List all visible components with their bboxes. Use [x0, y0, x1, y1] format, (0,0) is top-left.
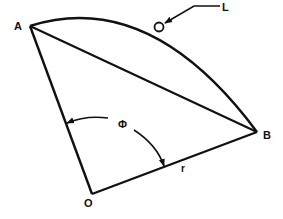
label-b: B — [263, 129, 271, 141]
label-o: O — [84, 197, 93, 209]
label-l: L — [222, 1, 229, 13]
l-leader-line — [165, 6, 220, 23]
label-a: A — [14, 20, 22, 32]
label-r: r — [181, 163, 185, 174]
phi-arc-left — [67, 117, 108, 123]
label-phi: Φ — [118, 118, 127, 130]
phi-arc-right — [134, 130, 164, 166]
point-l-marker — [155, 23, 164, 32]
radius-ob — [92, 132, 257, 194]
sector-diagram: A B O L Φ r — [0, 0, 283, 219]
